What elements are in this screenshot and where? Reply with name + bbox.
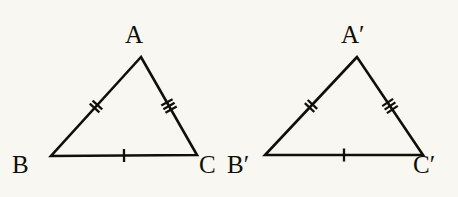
vertex-letter: B <box>227 151 244 178</box>
triangle-shapes-group <box>51 57 423 156</box>
vertex-label-a: A <box>125 22 143 47</box>
triangle-outline-abc-prime <box>265 57 423 155</box>
prime-mark-icon: ′ <box>359 21 364 48</box>
vertex-letter: C <box>199 151 216 178</box>
vertex-label-b: B <box>12 152 29 177</box>
vertex-letter: A <box>125 21 143 48</box>
vertex-label-b-prime: B′ <box>227 152 249 177</box>
vertex-label-c-prime: C′ <box>413 152 435 177</box>
tick-group-side-ac <box>161 99 176 113</box>
vertex-letter: A <box>341 21 359 48</box>
vertex-label-a-prime: A′ <box>341 22 365 47</box>
prime-mark-icon: ′ <box>430 151 435 178</box>
geometry-figure: ABCA′B′C′ <box>0 0 458 197</box>
tick-group-side-ac-prime <box>382 99 397 113</box>
prime-mark-icon: ′ <box>244 151 249 178</box>
vertex-letter: C <box>413 151 430 178</box>
vertex-label-c: C <box>199 152 216 177</box>
vertex-letter: B <box>12 151 29 178</box>
